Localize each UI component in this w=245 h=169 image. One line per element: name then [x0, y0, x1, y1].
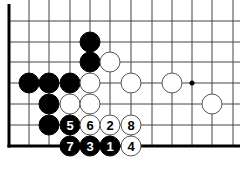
move-number: 1	[106, 139, 113, 154]
white-stone	[80, 94, 100, 114]
black-stone	[19, 73, 39, 93]
white-stone	[100, 52, 120, 72]
white-stone: 2	[100, 115, 120, 135]
black-stone	[39, 94, 59, 114]
black-stone	[60, 73, 80, 93]
black-stone	[80, 52, 100, 72]
white-stone: 8	[121, 115, 141, 135]
move-number: 3	[86, 139, 93, 154]
move-number: 7	[66, 139, 73, 154]
white-stone	[162, 73, 182, 93]
move-number: 4	[127, 139, 135, 154]
black-stone: 7	[60, 136, 80, 156]
move-number: 2	[106, 118, 113, 133]
white-stone	[121, 73, 141, 93]
go-board: 56287314	[0, 0, 245, 169]
white-stone: 6	[80, 115, 100, 135]
black-stone	[80, 32, 100, 52]
black-stone	[39, 115, 59, 135]
star-points	[190, 81, 195, 86]
white-stone	[60, 94, 80, 114]
black-stone: 1	[100, 136, 120, 156]
black-stone	[39, 73, 59, 93]
move-number: 8	[127, 118, 134, 133]
white-stone	[202, 94, 222, 114]
black-stone: 5	[60, 115, 80, 135]
move-number: 6	[86, 118, 93, 133]
white-stone: 4	[121, 136, 141, 156]
white-stone	[80, 73, 100, 93]
star-point	[190, 81, 195, 86]
black-stone: 3	[80, 136, 100, 156]
move-number: 5	[66, 118, 73, 133]
